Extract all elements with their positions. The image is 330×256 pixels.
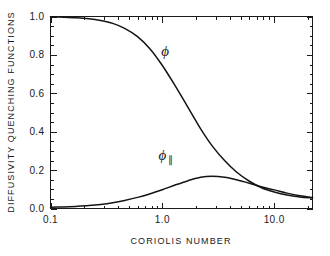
x-axis-title: CORIOLIS NUMBER xyxy=(130,236,231,246)
y-tick-label: 0.2 xyxy=(29,165,44,176)
y-tick-label: 0.6 xyxy=(29,88,44,99)
chart-plot: 0.11.010.0 0.00.20.40.60.81.0 ϕϕ∥ CORIOL… xyxy=(0,0,330,256)
y-axis-title: DIFFUSIVITY QUENCHING FUNCTIONS xyxy=(6,11,16,212)
x-tick-label: 10.0 xyxy=(264,214,285,225)
phi-label-glyph: ϕ xyxy=(161,43,169,59)
phi-label: ϕ xyxy=(161,43,169,59)
y-tick-label: 0.4 xyxy=(29,126,44,137)
x-tick-label: 0.1 xyxy=(43,214,58,225)
y-tick-label: 0.0 xyxy=(29,203,44,214)
figure-container: 0.11.010.0 0.00.20.40.60.81.0 ϕϕ∥ CORIOL… xyxy=(0,0,330,256)
y-tick-label: 1.0 xyxy=(29,11,44,22)
x-tick-label: 1.0 xyxy=(155,214,170,225)
phi-parallel-label-glyph: ϕ xyxy=(158,147,166,163)
y-tick-label: 0.8 xyxy=(29,49,44,60)
phi-parallel-label-subscript: ∥ xyxy=(168,154,173,166)
